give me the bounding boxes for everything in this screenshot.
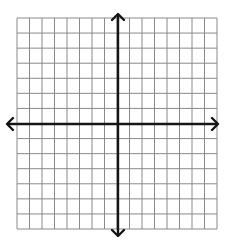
axes <box>7 14 218 236</box>
coordinate-plane <box>0 0 226 243</box>
